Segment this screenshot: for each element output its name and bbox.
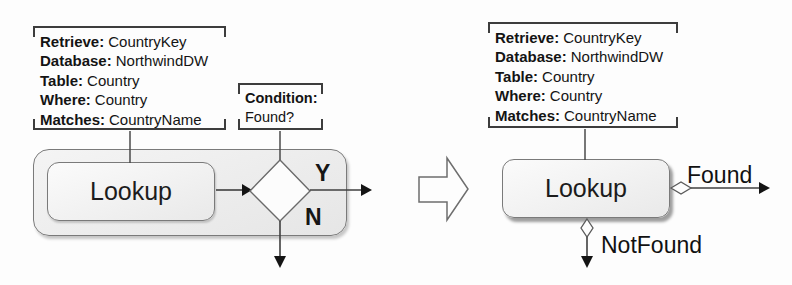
block-arrow-icon xyxy=(419,158,468,220)
notfound-port-diamond-icon xyxy=(581,219,593,237)
notfound-label: NotFound xyxy=(601,232,702,259)
no-exit-arrowhead-icon xyxy=(274,256,286,268)
notfound-arrowhead-icon xyxy=(581,256,593,268)
found-label: Found xyxy=(687,162,752,189)
figure-canvas: Retrieve:CountryKey Database:NorthwindDW… xyxy=(0,0,792,285)
found-arrowhead-icon xyxy=(759,182,770,194)
yes-exit-arrowhead-icon xyxy=(361,184,372,196)
yes-label: Y xyxy=(315,160,330,187)
no-label: N xyxy=(305,204,322,231)
decision-diamond xyxy=(250,160,310,221)
